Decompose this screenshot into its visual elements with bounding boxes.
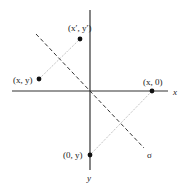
point-0-y — [88, 153, 93, 158]
point-x-0 — [150, 89, 155, 94]
point-x-y — [37, 77, 42, 82]
diagram-canvas: (x′, y′) (x, y) (x, 0) (0, y) x y σ — [0, 0, 189, 190]
label-0-y: (0, y) — [63, 150, 83, 160]
reflection-diagram: (x′, y′) (x, y) (x, 0) (0, y) x y σ — [0, 0, 189, 190]
label-x-0: (x, 0) — [143, 77, 163, 87]
sigma-label: σ — [147, 150, 152, 160]
label-x-y: (x, y) — [13, 75, 33, 85]
x-axis-label: x — [172, 87, 177, 97]
point-x-prime-y-prime — [78, 37, 83, 42]
y-axis-label: y — [86, 173, 91, 183]
label-x-prime-y-prime: (x′, y′) — [68, 23, 91, 33]
